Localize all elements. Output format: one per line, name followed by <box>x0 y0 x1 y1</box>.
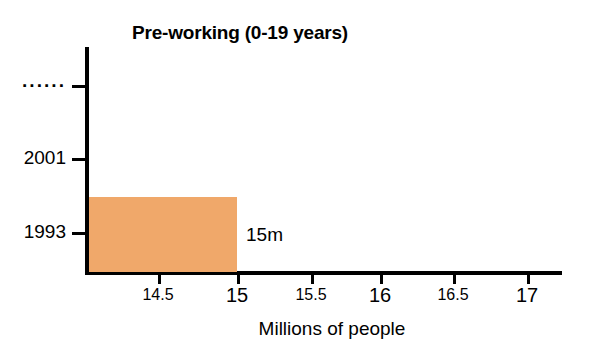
x-axis-tick-label-15: 15 <box>197 285 277 305</box>
x-axis-title: Millions of people <box>0 318 608 340</box>
y-axis-tick-mark <box>72 158 86 161</box>
y-axis-tick-mark <box>72 85 86 88</box>
y-axis-label-2001: 2001 <box>0 148 66 168</box>
x-axis-tick-mark <box>453 273 456 284</box>
x-axis-tick-mark <box>380 273 383 284</box>
x-axis-tick-label-17: 17 <box>487 285 567 305</box>
x-axis-tick-mark <box>311 273 314 284</box>
bar-chart-figure: Pre-working (0-19 years) ······ 2001 199… <box>0 0 608 359</box>
bar-value-label-1993: 15m <box>246 224 283 245</box>
bar-1993 <box>89 197 237 272</box>
chart-title: Pre-working (0-19 years) <box>0 22 608 44</box>
y-axis-label-1993: 1993 <box>0 222 66 242</box>
y-axis-label-ellipsis: ······ <box>0 76 66 96</box>
x-axis-tick-mark <box>158 273 161 284</box>
x-axis-tick-label-14-5: 14.5 <box>118 285 198 305</box>
x-axis-tick-label-15-5: 15.5 <box>271 285 351 305</box>
x-axis-tick-label-16-5: 16.5 <box>413 285 493 305</box>
x-axis-tick-mark <box>237 273 240 284</box>
x-axis-tick-mark <box>527 273 530 284</box>
y-axis-tick-mark <box>72 232 86 235</box>
x-axis-tick-label-16: 16 <box>340 285 420 305</box>
